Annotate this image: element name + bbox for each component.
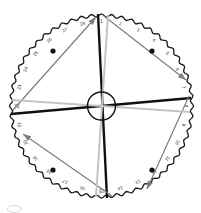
dot-top-left	[50, 48, 55, 53]
figure-root: 1234567891011121314151617181920212223242…	[0, 0, 201, 213]
dot-bottom-left	[50, 167, 55, 172]
dot-top-right	[149, 48, 154, 53]
dot-bottom-right	[149, 167, 154, 172]
dial-diagram: 1234567891011121314151617181920212223242…	[0, 0, 201, 213]
tick-label-1: 1	[100, 19, 103, 24]
